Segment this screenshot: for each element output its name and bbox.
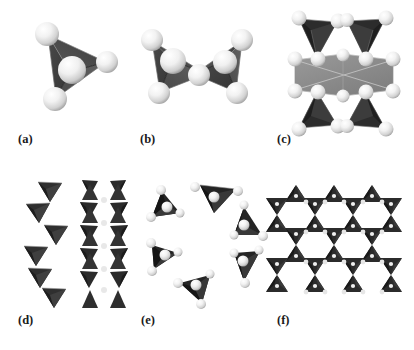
double-chain: [80, 180, 128, 308]
panel-a-isolated-tetrahedron: [22, 18, 118, 120]
panel-label-e: (e): [141, 313, 155, 328]
single-chain: [24, 182, 68, 308]
oxygen-spheres: [35, 22, 118, 111]
panel-f-svg: [282, 183, 408, 307]
panel-e-svg: [148, 183, 266, 305]
bridging-oxygen: [188, 64, 210, 86]
panel-d-svg: [22, 180, 132, 310]
panel-b-svg: [138, 30, 262, 122]
panel-label-c: (c): [277, 132, 291, 147]
panel-f-tetrahedral-sheet: [282, 183, 408, 307]
panel-label-a: (a): [18, 132, 33, 147]
panel-c-svg: [285, 10, 403, 130]
panel-d-chains: [22, 180, 132, 310]
panel-label-f: (f): [277, 313, 290, 328]
panel-e-six-ring: [148, 183, 266, 305]
panel-a-svg: [22, 18, 118, 120]
panel-c-octahedron-with-tetrahedra: [285, 10, 403, 130]
panel-label-b: (b): [140, 132, 155, 147]
bridging-spheres: [101, 197, 107, 293]
panel-b-corner-sharing-pair: [138, 30, 262, 122]
panel-label-d: (d): [18, 313, 33, 328]
silicate-structure-figure: (a): [0, 0, 414, 350]
